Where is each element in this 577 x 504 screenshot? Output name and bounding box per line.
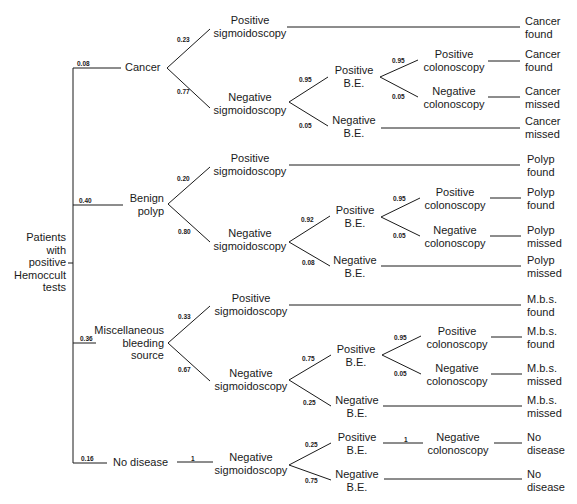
node-mbs-positive-colonoscopy: Positivecolonoscopy: [426, 325, 487, 350]
outcome-polyp-found: Polypfound: [527, 153, 555, 178]
prob-polyp-pos-be: 0.92: [301, 216, 314, 224]
outcome-polyp-found: Polypfound: [527, 186, 555, 211]
prob-mbs-pos-col: 0.95: [394, 334, 407, 342]
node-label-line: Negative: [332, 114, 375, 127]
node-nodisease-negative-be: NegativeB.E.: [335, 468, 378, 493]
prob-misc-bleeding-source: 0.36: [80, 335, 93, 343]
node-label-line: source: [94, 349, 164, 362]
node-label-line: colonoscopy: [424, 237, 485, 250]
node-label-line: Negative: [335, 394, 378, 407]
node-label-line: colonoscopy: [426, 338, 487, 351]
outcome-line: M.b.s.: [527, 362, 562, 375]
root-node-patients-with-positive-hemoccult-tests: Patients with positive Hemoccult tests: [14, 231, 66, 294]
node-label-line: colonoscopy: [424, 199, 485, 212]
prob-no-disease: 0.16: [81, 455, 94, 463]
outcome-polyp-missed: Polypmissed: [527, 254, 562, 279]
node-polyp-positive-sigmoidoscopy: Positivesigmoidoscopy: [214, 152, 287, 177]
outcome-no-disease: Nodisease: [527, 468, 565, 493]
outcome-no-disease: Nodisease: [527, 431, 565, 456]
node-label-line: Negative: [214, 91, 287, 104]
node-label-line: colonoscopy: [423, 61, 484, 74]
prob-cancer-neg-be: 0.05: [299, 122, 312, 130]
outcome-line: missed: [527, 375, 562, 388]
node-no-disease: No disease: [113, 456, 168, 469]
node-cancer-negative-sigmoidoscopy: Negativesigmoidoscopy: [214, 91, 287, 116]
outcome-line: found: [527, 306, 557, 319]
node-label-line: sigmoidoscopy: [214, 240, 287, 253]
node-label-line: Negative: [335, 468, 378, 481]
prob-cancer-neg-sig: 0.77: [177, 88, 190, 96]
node-polyp-positive-be: PositiveB.E.: [336, 204, 375, 229]
outcome-cancer-missed: Cancermissed: [525, 85, 560, 110]
node-nodisease-negative-sigmoidoscopy: Negativesigmoidoscopy: [215, 451, 288, 476]
outcome-line: Polyp: [527, 224, 562, 237]
node-nodisease-positive-be: PositiveB.E.: [338, 431, 377, 456]
outcome-line: missed: [527, 237, 562, 250]
outcome-line: missed: [525, 98, 560, 111]
outcome-mbs-found: M.b.s.found: [527, 293, 557, 318]
prob-mbs-neg-sig: 0.67: [178, 366, 191, 374]
node-label-line: Positive: [215, 292, 288, 305]
prob-cancer: 0.08: [77, 60, 90, 68]
node-label-line: Negative: [423, 85, 484, 98]
node-mbs-negative-sigmoidoscopy: Negativesigmoidoscopy: [215, 367, 288, 392]
outcome-line: M.b.s.: [527, 293, 557, 306]
prob-nodisease-neg-col: 1: [404, 436, 408, 444]
node-label-line: sigmoidoscopy: [214, 104, 287, 117]
prob-mbs-neg-be: 0.25: [303, 399, 316, 407]
node-label-line: sigmoidoscopy: [215, 380, 288, 393]
outcome-line: found: [525, 61, 560, 74]
node-label-line: Negative: [214, 227, 287, 240]
outcome-cancer-found: Cancerfound: [525, 48, 560, 73]
outcome-cancer-found: Cancerfound: [525, 15, 560, 40]
outcome-line: Cancer: [525, 85, 560, 98]
prob-polyp-neg-col: 0.05: [393, 232, 406, 240]
outcome-line: No: [527, 468, 565, 481]
node-polyp-negative-be: NegativeB.E.: [333, 254, 376, 279]
node-cancer-negative-be: NegativeB.E.: [332, 114, 375, 139]
outcome-line: Polyp: [527, 186, 555, 199]
prob-mbs-neg-col: 0.05: [394, 370, 407, 378]
outcome-line: Polyp: [527, 254, 562, 267]
root-label-line: tests: [14, 281, 66, 294]
node-cancer-positive-colonoscopy: Positivecolonoscopy: [423, 48, 484, 73]
prob-nodisease-neg-be: 0.75: [305, 477, 318, 485]
outcome-mbs-missed: M.b.s.missed: [527, 362, 562, 387]
node-label-line: sigmoidoscopy: [214, 165, 287, 178]
node-label-line: colonoscopy: [423, 98, 484, 111]
outcome-polyp-missed: Polypmissed: [527, 224, 562, 249]
prob-mbs-pos-sig: 0.33: [178, 313, 191, 321]
node-label-line: Negative: [424, 224, 485, 237]
outcome-line: found: [525, 28, 560, 41]
node-label-line: B.E.: [335, 77, 374, 90]
prob-nodisease-neg-sig: 1: [191, 455, 195, 463]
node-label-line: Positive: [424, 186, 485, 199]
prob-cancer-neg-col: 0.05: [392, 93, 405, 101]
node-label-line: bleeding: [94, 337, 164, 350]
node-label-line: B.E.: [333, 267, 376, 280]
node-label-line: B.E.: [335, 481, 378, 494]
node-cancer-negative-colonoscopy: Negativecolonoscopy: [423, 85, 484, 110]
outcome-line: No: [527, 431, 565, 444]
prob-benign-polyp: 0.40: [79, 197, 92, 205]
outcome-line: missed: [525, 128, 560, 141]
prob-polyp-neg-sig: 0.80: [178, 228, 191, 236]
node-mbs-negative-be: NegativeB.E.: [335, 394, 378, 419]
node-label-line: Positive: [214, 14, 287, 27]
node-label-line: polyp: [130, 205, 164, 218]
node-nodisease-negative-colonoscopy: Negativecolonoscopy: [427, 431, 488, 456]
node-label-line: Positive: [426, 325, 487, 338]
outcome-line: disease: [527, 481, 565, 494]
outcome-line: Polyp: [527, 153, 555, 166]
node-cancer-positive-sigmoidoscopy: Positivesigmoidoscopy: [214, 14, 287, 39]
node-label-line: Positive: [214, 152, 287, 165]
prob-cancer-pos-sig: 0.23: [177, 36, 190, 44]
prob-polyp-neg-be: 0.08: [302, 259, 315, 267]
node-label-line: Benign: [130, 192, 164, 205]
node-label-line: B.E.: [335, 407, 378, 420]
node-label-line: B.E.: [332, 127, 375, 140]
outcome-line: found: [527, 166, 555, 179]
prob-polyp-pos-col: 0.95: [393, 195, 406, 203]
node-label-line: Miscellaneous: [94, 324, 164, 337]
outcome-mbs-found: M.b.s.found: [527, 325, 557, 350]
